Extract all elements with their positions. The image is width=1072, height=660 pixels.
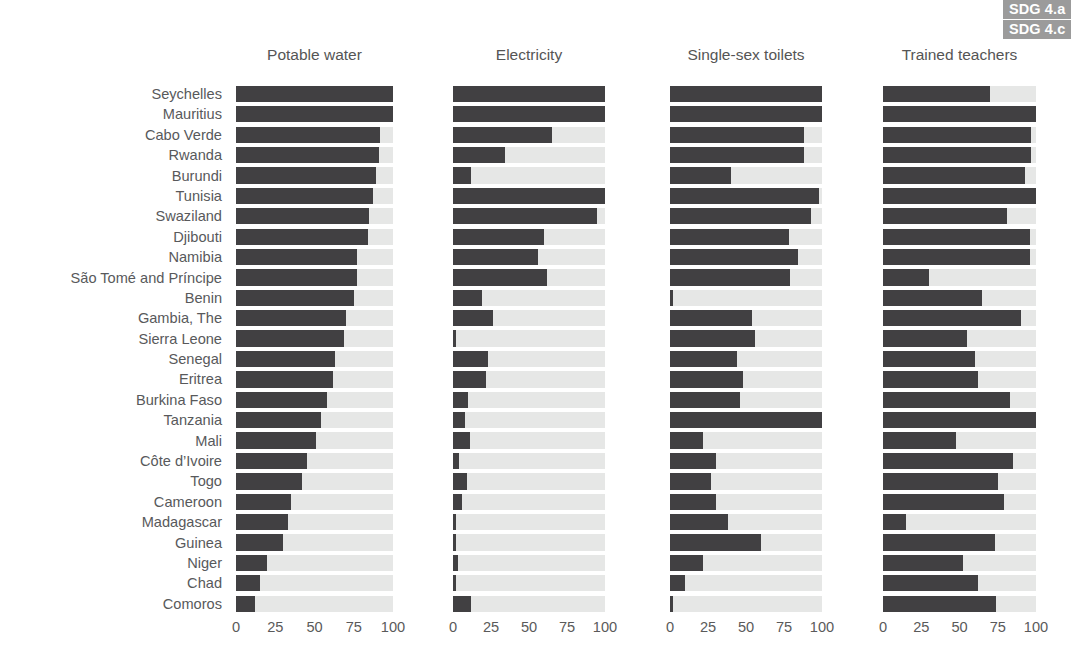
category-label: Seychelles bbox=[0, 84, 222, 104]
bar-fill bbox=[883, 86, 990, 102]
bar-track bbox=[670, 596, 822, 612]
bar-row bbox=[453, 145, 605, 165]
panel-title-electricity: Electricity bbox=[453, 46, 605, 64]
bar-row bbox=[236, 227, 393, 247]
bar-row bbox=[670, 573, 822, 593]
bar-fill bbox=[236, 534, 283, 550]
bar-track bbox=[453, 453, 605, 469]
bar-fill bbox=[883, 596, 996, 612]
bar-row bbox=[670, 145, 822, 165]
bar-track bbox=[670, 575, 822, 591]
bar-row bbox=[236, 390, 393, 410]
x-tick-label: 75 bbox=[990, 619, 1006, 635]
bar-fill bbox=[236, 412, 321, 428]
bar-fill bbox=[670, 249, 798, 265]
bar-row bbox=[453, 84, 605, 104]
bar-row bbox=[883, 227, 1036, 247]
bar-fill bbox=[236, 310, 346, 326]
bar-fill bbox=[670, 147, 804, 163]
bar-row bbox=[670, 431, 822, 451]
bar-track bbox=[453, 167, 605, 183]
bar-row bbox=[236, 431, 393, 451]
bar-fill bbox=[453, 290, 482, 306]
bar-row bbox=[453, 329, 605, 349]
x-tick-label: 25 bbox=[267, 619, 283, 635]
bar-fill bbox=[670, 514, 728, 530]
bar-row bbox=[670, 186, 822, 206]
bar-row bbox=[236, 247, 393, 267]
bar-row bbox=[236, 573, 393, 593]
category-label: Chad bbox=[0, 573, 222, 593]
bar-fill bbox=[883, 392, 1010, 408]
bar-row bbox=[883, 410, 1036, 430]
x-tick-label: 25 bbox=[913, 619, 929, 635]
panel-electricity bbox=[453, 84, 605, 614]
bar-row bbox=[670, 125, 822, 145]
bar-fill bbox=[236, 188, 373, 204]
bar-row bbox=[453, 512, 605, 532]
bar-row bbox=[883, 308, 1036, 328]
bar-row bbox=[670, 451, 822, 471]
bar-track bbox=[453, 555, 605, 571]
bar-row bbox=[453, 186, 605, 206]
bar-fill bbox=[453, 412, 465, 428]
bar-fill bbox=[883, 473, 998, 489]
bar-fill bbox=[236, 147, 379, 163]
bar-row bbox=[236, 451, 393, 471]
bar-fill bbox=[453, 127, 552, 143]
bar-row bbox=[883, 594, 1036, 614]
x-tick-label: 0 bbox=[232, 619, 240, 635]
x-tick-label: 50 bbox=[738, 619, 754, 635]
bar-fill bbox=[453, 494, 462, 510]
category-label: Sierra Leone bbox=[0, 329, 222, 349]
bar-row bbox=[883, 268, 1036, 288]
bar-row bbox=[670, 369, 822, 389]
bar-fill bbox=[236, 330, 344, 346]
bar-row bbox=[236, 329, 393, 349]
bar-row bbox=[236, 533, 393, 553]
bar-fill bbox=[453, 555, 458, 571]
bar-row bbox=[236, 410, 393, 430]
bar-row bbox=[453, 166, 605, 186]
bar-row bbox=[453, 308, 605, 328]
bar-row bbox=[453, 471, 605, 491]
bar-row bbox=[236, 166, 393, 186]
bar-track bbox=[453, 392, 605, 408]
bar-row bbox=[883, 206, 1036, 226]
x-tick-label: 25 bbox=[700, 619, 716, 635]
bar-row bbox=[670, 227, 822, 247]
bar-fill bbox=[670, 494, 716, 510]
bar-track bbox=[453, 494, 605, 510]
category-label: Namibia bbox=[0, 247, 222, 267]
bar-fill bbox=[236, 575, 260, 591]
bar-fill bbox=[883, 330, 967, 346]
bar-row bbox=[453, 492, 605, 512]
x-tick-label: 50 bbox=[951, 619, 967, 635]
bar-fill bbox=[883, 453, 1013, 469]
bar-fill bbox=[883, 310, 1021, 326]
bar-fill bbox=[670, 208, 811, 224]
category-label: São Tomé and Príncipe bbox=[0, 268, 222, 288]
bar-fill bbox=[236, 494, 291, 510]
category-label: Madagascar bbox=[0, 512, 222, 532]
bar-fill bbox=[453, 351, 488, 367]
bar-row bbox=[453, 125, 605, 145]
bar-row bbox=[883, 84, 1036, 104]
bar-row bbox=[883, 451, 1036, 471]
bar-fill bbox=[236, 269, 357, 285]
bar-track bbox=[453, 514, 605, 530]
sdg-badge-4c: SDG 4.c bbox=[1003, 20, 1071, 39]
bar-fill bbox=[236, 127, 380, 143]
bar-fill bbox=[883, 494, 1004, 510]
bar-fill bbox=[670, 534, 761, 550]
panel-title-potable-water: Potable water bbox=[236, 46, 393, 64]
bar-row bbox=[236, 594, 393, 614]
bar-row bbox=[883, 369, 1036, 389]
x-axis-single-sex-toilets: 0255075100 bbox=[670, 619, 822, 641]
bar-row bbox=[670, 166, 822, 186]
bar-fill bbox=[453, 208, 597, 224]
bar-row bbox=[236, 125, 393, 145]
bar-fill bbox=[670, 86, 822, 102]
bar-row bbox=[453, 573, 605, 593]
bar-row bbox=[236, 349, 393, 369]
